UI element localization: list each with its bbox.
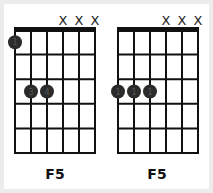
finger-number: 1	[147, 88, 152, 97]
muted-string-x-icon: X	[91, 13, 100, 28]
chord-label-1: F5	[25, 166, 85, 182]
chord-diagram-2: XXX111	[111, 13, 203, 153]
muted-string-x-icon: X	[178, 13, 187, 28]
chord-diagrams: XXX134XXX111	[0, 0, 213, 193]
nut	[117, 27, 199, 32]
muted-string-x-icon: X	[75, 13, 84, 28]
muted-string-x-icon: X	[59, 13, 68, 28]
muted-string-x-icon: X	[162, 13, 171, 28]
finger-number: 1	[115, 88, 120, 97]
finger-number: 4	[44, 88, 49, 97]
nut	[14, 27, 96, 32]
finger-number: 1	[12, 38, 17, 47]
chord-label-2: F5	[127, 166, 187, 182]
finger-number: 1	[131, 88, 136, 97]
finger-number: 3	[28, 88, 33, 97]
chord-diagram-1: XXX134	[8, 13, 100, 153]
muted-string-x-icon: X	[194, 13, 203, 28]
